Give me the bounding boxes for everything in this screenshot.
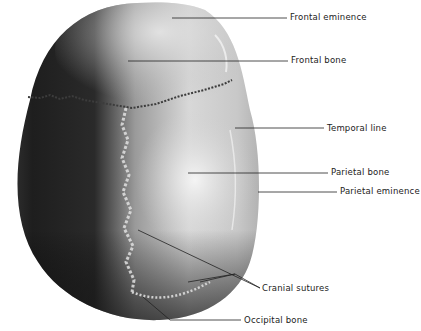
label-temporal-line: Temporal line xyxy=(327,123,387,133)
label-cranial-sutures: Cranial sutures xyxy=(262,283,329,293)
label-frontal-bone: Frontal bone xyxy=(291,55,346,65)
label-occipital-bone: Occipital bone xyxy=(244,315,308,325)
label-frontal-eminence: Frontal eminence xyxy=(290,12,367,22)
skull-diagram: Frontal eminence Frontal bone Temporal l… xyxy=(0,0,421,331)
skull-illustration xyxy=(0,0,421,331)
label-parietal-bone: Parietal bone xyxy=(331,167,389,177)
label-parietal-eminence: Parietal eminence xyxy=(340,186,420,196)
